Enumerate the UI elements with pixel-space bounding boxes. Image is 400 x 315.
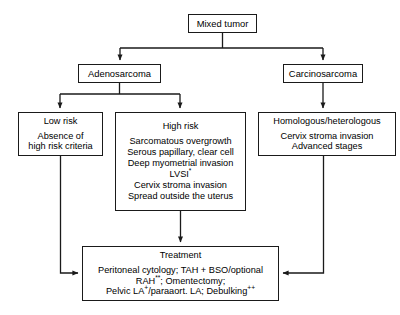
node-mixed-tumor-label: Mixed tumor — [197, 18, 249, 29]
flowchart-canvas: Mixed tumor Adenosarcoma Carcinosarcoma … — [0, 0, 400, 315]
node-low-risk-line-0: Absence of — [38, 131, 84, 142]
node-treatment-line-1: RAH**; Omentectomy; — [136, 276, 225, 287]
node-homologous-line-1: Advanced stages — [292, 141, 363, 152]
node-high-risk-line-2: Deep myometrial invasion — [128, 158, 234, 169]
node-carcinosarcoma-label: Carcinosarcoma — [289, 68, 357, 79]
node-high-risk: High risk Sarcomatous overgrowth Serous … — [115, 112, 246, 211]
node-treatment: Treatment Peritoneal cytology; TAH + BSO… — [82, 246, 279, 301]
node-high-risk-line-3: LVSI* — [170, 169, 192, 180]
node-high-risk-title: High risk — [163, 121, 199, 132]
node-carcinosarcoma: Carcinosarcoma — [283, 64, 363, 83]
node-high-risk-line-0: Sarcomatous overgrowth — [129, 136, 231, 147]
node-treatment-line-0: Peritoneal cytology; TAH + BSO/optional — [98, 265, 263, 276]
node-low-risk-line-1: high risk criteria — [28, 141, 92, 152]
node-homologous: Homologous/heterologous Cervix stroma in… — [258, 112, 396, 156]
node-low-risk-title: Low risk — [44, 116, 78, 127]
edge-low-risk-to-treatment — [61, 156, 79, 273]
node-high-risk-line-1: Serous papillary, clear cell — [127, 147, 234, 158]
node-treatment-title: Treatment — [160, 250, 202, 261]
node-adenosarcoma: Adenosarcoma — [78, 64, 161, 83]
edge-homologous-to-treatment — [283, 156, 324, 273]
node-mixed-tumor: Mixed tumor — [188, 14, 257, 33]
node-adenosarcoma-label: Adenosarcoma — [88, 68, 151, 79]
node-homologous-title: Homologous/heterologous — [273, 116, 380, 127]
node-high-risk-line-5: Spread outside the uterus — [128, 191, 233, 202]
node-low-risk: Low risk Absence of high risk criteria — [18, 112, 103, 156]
node-treatment-line-2: Pelvic LA+/paraaort. LA; Debulking++ — [106, 286, 255, 297]
node-homologous-line-0: Cervix stroma invasion — [281, 131, 374, 142]
node-high-risk-line-4: Cervix stroma invasion — [134, 180, 227, 191]
